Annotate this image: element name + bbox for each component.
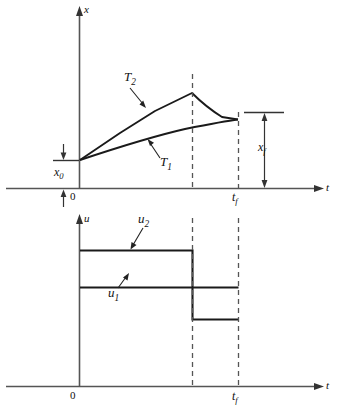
signal-label-u1-subscript: 1 — [115, 293, 120, 303]
upper-x-axis-label: t — [326, 182, 329, 193]
upper-xf-label: xf — [258, 141, 266, 156]
lower-x-axis — [6, 383, 324, 390]
upper-tf-subscript: f — [235, 196, 237, 206]
signal-label-u2-subscript: 2 — [145, 219, 150, 229]
upper-x-axis — [6, 185, 324, 192]
figure-container: x t x0 0 xf tf T2 T1 u t 0 tf u2 u1 — [0, 0, 341, 417]
curve-label-T1-subscript: 1 — [167, 162, 172, 172]
figure-canvas — [0, 0, 341, 417]
upper-origin-label: 0 — [70, 191, 76, 202]
signal-label-u2: u2 — [138, 212, 149, 229]
curve-label-T2: T2 — [124, 70, 136, 87]
upper-xf-subscript: f — [263, 146, 265, 156]
curve-label-T2-subscript: 2 — [131, 77, 136, 87]
lower-y-axis-label: u — [84, 213, 90, 224]
signal-label-u1: u1 — [108, 286, 119, 303]
pointer-arrow-T1 — [148, 139, 161, 158]
upper-x0-arrow-down — [61, 144, 67, 160]
curve-T2 — [80, 93, 238, 160]
lower-tf-subscript: f — [235, 395, 237, 405]
upper-x0-label: x0 — [54, 166, 64, 181]
upper-tf-label: tf — [232, 191, 238, 206]
signal-u2 — [80, 251, 239, 320]
upper-x0-arrow-up — [61, 190, 67, 208]
curve-T1 — [80, 120, 238, 161]
lower-origin-label: 0 — [70, 390, 76, 401]
upper-x0-subscript: 0 — [59, 171, 63, 181]
pointer-arrow-T2 — [130, 88, 146, 108]
pointer-arrow-u2 — [131, 228, 144, 250]
lower-tf-label: tf — [232, 390, 238, 405]
lower-x-axis-label: t — [326, 380, 329, 391]
lower-y-axis — [76, 214, 83, 387]
curve-label-T1: T1 — [160, 155, 172, 172]
pointer-arrow-u1 — [118, 273, 129, 288]
upper-y-axis-label: x — [84, 4, 89, 15]
